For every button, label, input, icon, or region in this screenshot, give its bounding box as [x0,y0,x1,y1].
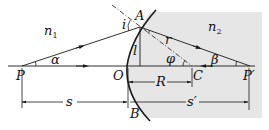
i-arc [128,20,131,31]
label-height-l: l [133,43,137,58]
label-distance-s: s [66,94,73,109]
incident-ray-arrow [76,46,82,48]
label-point-P-prime: P′ [242,68,255,83]
label-point-A: A [134,8,144,23]
label-distance-s-prime: s′ [187,94,197,109]
refraction-diagram: n1 n2 P O C P′ A B α β φ i r l R s s′ [0,0,269,130]
label-point-O: O [113,68,124,83]
label-i: i [122,17,126,32]
label-r: r [165,32,172,47]
label-n1: n1 [44,23,57,40]
label-beta: β [210,52,219,67]
label-phi: φ [166,51,176,66]
alpha-arc [35,62,36,66]
label-alpha: α [51,52,60,67]
label-point-C: C [193,68,203,83]
label-point-B: B [129,106,140,121]
label-radius-R: R [155,74,166,89]
label-point-P: P [15,68,25,83]
